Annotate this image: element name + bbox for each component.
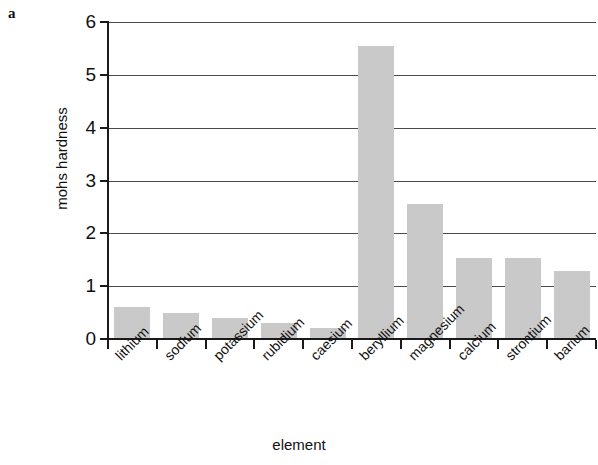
x-axis-tick [351, 340, 353, 349]
y-axis-title: mohs hardness [53, 64, 70, 254]
gridline [108, 181, 596, 182]
gridline [108, 233, 596, 234]
x-axis-tick [449, 340, 451, 349]
x-axis-tick [253, 340, 255, 349]
x-axis-tick [107, 340, 109, 349]
x-axis-tick [595, 340, 597, 349]
x-axis-tick [497, 340, 499, 349]
y-axis-tick-label: 2 [68, 223, 96, 242]
y-axis-tick-label: 3 [68, 171, 96, 190]
bar [358, 46, 394, 339]
y-axis-tick-label: 5 [68, 65, 96, 84]
y-axis-tick-label: 4 [68, 118, 96, 137]
gridline [108, 75, 596, 76]
plot-area [108, 22, 596, 339]
y-axis-tick-label: 0 [68, 329, 96, 348]
y-axis-tick-label-wrap: 6 [62, 12, 96, 32]
x-axis-tick [302, 340, 304, 349]
x-axis-title: element [0, 436, 598, 453]
y-axis-tick-label-wrap: 1 [62, 276, 96, 296]
gridline [108, 128, 596, 129]
x-axis-tick [546, 340, 548, 349]
y-axis-tick-label: 6 [68, 12, 96, 31]
x-axis-tick [400, 340, 402, 349]
y-axis-tick-label-wrap: 0 [62, 329, 96, 349]
y-axis-line [107, 21, 109, 340]
bar-chart: 0123456 lithiumsodiumpotassiumrubidiumca… [0, 0, 598, 465]
gridline [108, 22, 596, 23]
y-axis-tick-label: 1 [68, 276, 96, 295]
x-axis-tick [156, 340, 158, 349]
x-axis-tick [205, 340, 207, 349]
